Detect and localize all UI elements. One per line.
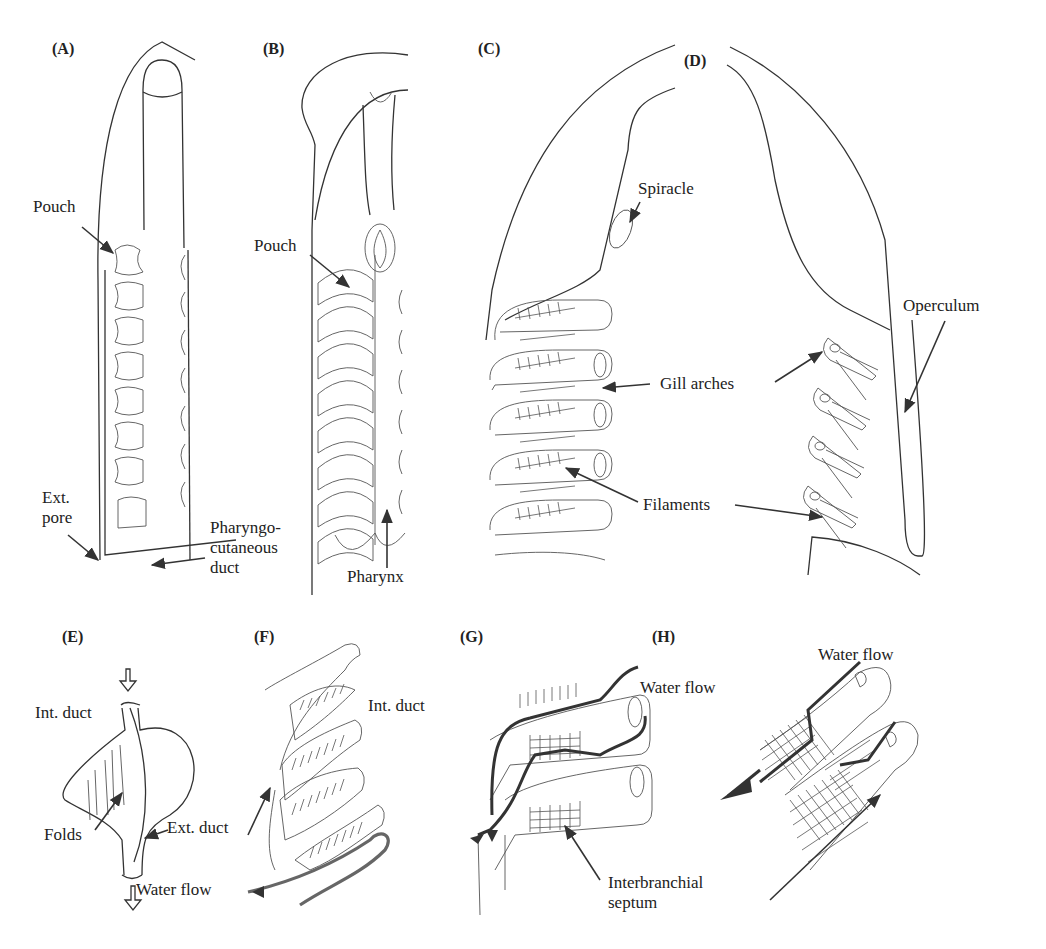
label-ext-pore: Ext. pore xyxy=(42,488,72,528)
panel-label-d: (D) xyxy=(684,52,706,70)
label-operculum: Operculum xyxy=(903,296,979,316)
panel-h-drawing xyxy=(720,662,918,900)
panel-f-drawing xyxy=(248,644,388,905)
label-folds: Folds xyxy=(44,825,82,845)
panel-label-h: (H) xyxy=(652,628,675,646)
label-pouch-b: Pouch xyxy=(254,236,297,256)
figure-drawing xyxy=(0,0,1046,949)
gill-anatomy-figure: (A) (B) (C) (D) (E) (F) (G) (H) Pouch Ex… xyxy=(0,0,1046,949)
label-water-flow-g: Water flow xyxy=(640,678,716,698)
label-int-duct-e: Int. duct xyxy=(35,703,92,723)
label-interbranchial-septum: Interbranchial septum xyxy=(608,873,703,913)
shark-gill-arches xyxy=(490,300,612,560)
panel-label-b: (B) xyxy=(263,40,284,58)
label-pharyngocutaneous-duct: Pharyngo- cutaneous duct xyxy=(210,518,281,578)
label-filaments: Filaments xyxy=(643,495,710,515)
panel-label-c: (C) xyxy=(478,40,500,58)
label-pharynx: Pharynx xyxy=(347,567,404,587)
label-water-flow-h: Water flow xyxy=(818,645,894,665)
panel-label-e: (E) xyxy=(62,628,83,646)
label-pouch-a: Pouch xyxy=(33,197,76,217)
label-water-flow-e: Water flow xyxy=(136,880,212,900)
pouch-column xyxy=(115,245,146,528)
panel-c-drawing xyxy=(486,45,675,560)
panel-b-drawing xyxy=(302,53,408,595)
pharynx-pouches xyxy=(318,270,373,564)
panel-a-drawing xyxy=(68,42,236,565)
panel-label-a: (A) xyxy=(52,40,74,58)
panel-label-f: (F) xyxy=(254,628,274,646)
panel-label-g: (G) xyxy=(460,628,483,646)
label-spiracle: Spiracle xyxy=(638,179,694,199)
label-gill-arches: Gill arches xyxy=(660,374,734,394)
right-pouch-column xyxy=(181,255,185,507)
label-int-duct-f: Int. duct xyxy=(368,696,425,716)
label-ext-duct: Ext. duct xyxy=(167,818,228,838)
